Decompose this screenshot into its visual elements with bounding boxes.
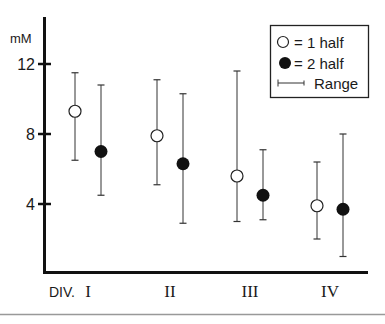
point-2-half — [95, 145, 108, 158]
x-tick-label: II — [164, 282, 176, 301]
data-marks — [69, 71, 350, 257]
legend-filled-circle-icon — [279, 57, 291, 69]
y-tick-label: 4 — [26, 196, 35, 213]
y-tick-label: 12 — [17, 56, 35, 73]
point-2-half — [257, 189, 270, 202]
legend-open-circle-icon — [278, 37, 289, 48]
point-1-half — [231, 170, 243, 182]
y-axis-label: mM — [10, 31, 32, 46]
point-1-half — [69, 105, 81, 117]
x-tick-label: IV — [321, 282, 340, 301]
y-tick-label: 8 — [26, 126, 35, 143]
legend-label-1-half: = 1 half — [294, 34, 344, 51]
point-1-half — [151, 130, 163, 142]
x-tick-label: III — [242, 282, 259, 301]
point-2-half — [337, 203, 350, 216]
point-2-half — [177, 157, 190, 170]
legend-label-range: Range — [314, 75, 358, 92]
legend-label-2-half: = 2 half — [294, 55, 344, 72]
legend: = 1 half = 2 half Range — [271, 26, 369, 98]
x-tick-label: I — [85, 282, 91, 301]
x-ticks: IIIIIIIV — [85, 282, 340, 301]
chart: mM DIV. 4812 IIIIIIIV = 1 half = 2 half … — [0, 0, 385, 324]
x-axis-label: DIV. — [49, 284, 75, 300]
point-1-half — [311, 200, 323, 212]
